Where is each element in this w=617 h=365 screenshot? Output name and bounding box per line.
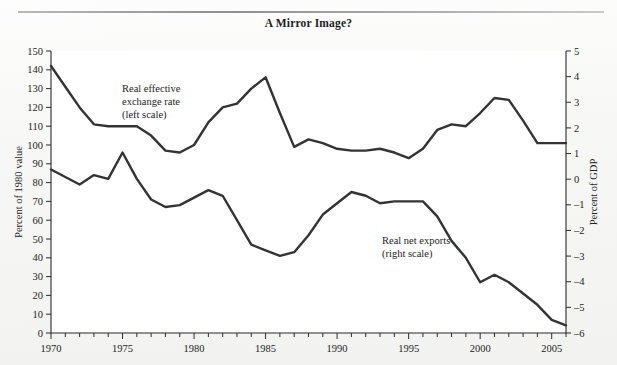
left-tick-label: 20 (33, 290, 44, 301)
annotation-net-exports-line1: Real net exports (382, 235, 450, 246)
right-tick-label: 2 (574, 123, 579, 134)
annotation-net-exports-line2: (right scale) (382, 248, 433, 260)
right-tick-label: 0 (574, 174, 579, 185)
left-tick-label: 90 (33, 158, 44, 169)
right-tick-label: 1 (574, 148, 579, 159)
right-axis-title: Percent of GDP (588, 159, 599, 226)
left-tick-label: 10 (33, 309, 44, 320)
left-tick-label: 0 (38, 328, 43, 339)
chart-figure: A Mirror Image? 010203040506070809010011… (0, 0, 617, 365)
plot-area-wrapper: 0102030405060708090100110120130140150 –6… (0, 0, 617, 365)
left-tick-label: 130 (27, 83, 43, 94)
left-tick-label: 150 (27, 46, 43, 57)
left-tick-label: 30 (33, 271, 44, 282)
right-tick-label: –5 (573, 302, 585, 313)
left-tick-label: 120 (27, 102, 43, 113)
left-tick-label: 50 (33, 234, 44, 245)
left-tick-label: 60 (33, 215, 44, 226)
bottom-tick-label: 1990 (327, 343, 348, 354)
right-tick-label: –1 (573, 199, 585, 210)
right-tick-label: 3 (574, 97, 579, 108)
chart-plot-svg: 0102030405060708090100110120130140150 –6… (0, 0, 617, 365)
left-tick-label: 100 (27, 140, 43, 151)
left-axis-ticks (46, 51, 51, 333)
right-axis-ticks (566, 51, 571, 333)
right-tick-label: –2 (573, 225, 585, 236)
left-axis-tick-labels: 0102030405060708090100110120130140150 (27, 46, 43, 339)
bottom-tick-label: 1970 (41, 343, 62, 354)
left-tick-label: 80 (33, 177, 44, 188)
bottom-tick-label: 1985 (255, 343, 276, 354)
annotation-exchange-rate-line1: Real effective (122, 83, 181, 94)
bottom-tick-label: 2000 (470, 343, 491, 354)
left-tick-label: 40 (33, 252, 44, 263)
bottom-tick-label: 1975 (112, 343, 133, 354)
right-tick-label: –4 (573, 276, 585, 287)
bottom-tick-label: 1995 (398, 343, 419, 354)
right-tick-label: 5 (574, 46, 579, 57)
right-tick-label: –6 (573, 328, 585, 339)
left-axis-title: Percent of 1980 value (13, 146, 24, 238)
annotation-exchange-rate-line2: exchange rate (122, 96, 180, 107)
annotation-exchange-rate-line3: (left scale) (122, 109, 167, 121)
right-axis-tick-labels: –6–5–4–3–2–1012345 (573, 46, 585, 339)
left-tick-label: 110 (28, 121, 43, 132)
right-tick-label: 4 (574, 71, 580, 82)
right-tick-label: –3 (573, 251, 585, 262)
bottom-tick-label: 1980 (184, 343, 205, 354)
left-tick-label: 70 (33, 196, 44, 207)
bottom-axis-tick-labels: 19701975198019851990199520002005 (41, 343, 563, 354)
left-tick-label: 140 (27, 64, 43, 75)
bottom-axis-ticks (51, 333, 566, 339)
bottom-tick-label: 2005 (541, 343, 562, 354)
